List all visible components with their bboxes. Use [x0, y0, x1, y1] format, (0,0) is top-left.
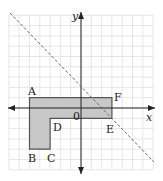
vertex-label-f: F — [114, 91, 122, 104]
vertex-label-e: E — [106, 123, 114, 136]
origin-label: 0 — [73, 110, 80, 123]
coordinate-diagram: y x 0 A F E D C B — [0, 0, 163, 181]
x-axis-label: x — [146, 111, 153, 124]
y-axis-down-arrow-icon — [78, 167, 84, 174]
y-axis-label: y — [71, 10, 79, 23]
vertex-label-a: A — [27, 85, 37, 98]
vertex-label-b: B — [28, 152, 36, 165]
vertex-label-c: C — [47, 152, 55, 165]
vertex-label-d: D — [53, 121, 62, 134]
